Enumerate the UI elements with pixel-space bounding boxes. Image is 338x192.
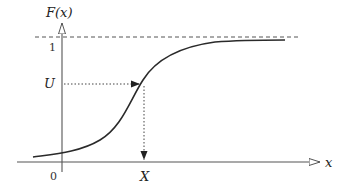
x-sample-label: X bbox=[139, 169, 150, 184]
u-label: U bbox=[44, 76, 56, 91]
cdf-curve bbox=[33, 40, 285, 157]
cdf-diagram: F(x) x 1 0 U X bbox=[0, 0, 338, 192]
tick-zero-label: 0 bbox=[50, 170, 57, 183]
y-axis-label: F(x) bbox=[45, 5, 73, 20]
tick-one-label: 1 bbox=[49, 41, 56, 54]
x-axis-label: x bbox=[325, 155, 333, 170]
